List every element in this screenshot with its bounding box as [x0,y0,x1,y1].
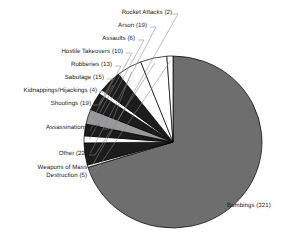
slice-label-assaults: Assaults (6) [64,35,135,42]
slice-label-assassinations: Assassinations (21) [20,124,100,131]
slice-label-rocket-attacks: Rocket Attacks (2) [100,9,172,16]
slice-label-wmd-line1: Weapons of Mass [13,164,87,171]
slice-label-hostile-takeovers: Hostile Takeovers (10) [40,48,123,55]
slice-label-wmd-line2: Destruction (5) [13,172,87,179]
slice-label-robberies: Robberies (13) [42,61,112,68]
slice-label-kidnappings-hijackings: Kidnappings/Hijackings (4) [4,87,97,94]
pie-chart-figure: Rocket Attacks (2) Arson (19) Assaults (… [0,0,299,237]
slice-label-sabotage: Sabotage (15) [35,74,104,81]
slice-label-arson: Arson (19) [78,22,147,29]
slice-label-shootings: Shootings (19) [26,100,91,107]
slice-label-other: Other (22) [30,150,87,157]
slice-label-bombings: Bombings (321) [227,202,271,209]
